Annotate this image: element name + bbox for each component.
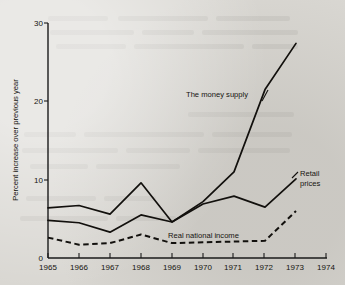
x-tick-label-1971: 1971 [224,263,242,272]
leader-line-retail-prices [292,172,298,178]
x-tick-label-1966: 1966 [70,263,88,272]
x-tick-label-1974: 1974 [317,263,335,272]
annotation-real-national-income: Real national income [168,231,239,240]
y-tick-label-30: 30 [34,19,43,28]
x-tick-label-1970: 1970 [194,263,212,272]
series-line-money-supply [48,43,296,222]
y-axis: 30 20 10 0 Percent increase over previou… [11,19,48,263]
x-tick-label-1973: 1973 [286,263,304,272]
annotation-label-money-supply: The money supply [186,90,248,99]
chart-svg: 30 20 10 0 Percent increase over previou… [0,0,345,285]
annotation-label-retail-prices-line1: Retail [300,169,320,178]
y-tick-label-20: 20 [34,97,43,106]
annotation-label-real-national-income: Real national income [168,231,239,240]
series-line-retail-prices [48,179,296,232]
y-tick-label-0: 0 [39,254,44,263]
y-axis-title: Percent increase over previous year [11,79,20,201]
x-axis: 1965 1966 1967 1968 1969 1970 1971 1972 … [39,253,335,272]
x-tick-label-1968: 1968 [132,263,150,272]
annotation-money-supply: The money supply [186,90,268,101]
x-tick-label-1965: 1965 [39,263,57,272]
x-tick-label-1969: 1969 [163,263,181,272]
x-tick-label-1967: 1967 [101,263,119,272]
series-group [48,43,296,244]
y-tick-label-10: 10 [34,176,43,185]
line-chart: 30 20 10 0 Percent increase over previou… [0,0,345,285]
x-tick-label-1972: 1972 [255,263,273,272]
annotation-label-retail-prices-line2: prices [300,179,320,188]
